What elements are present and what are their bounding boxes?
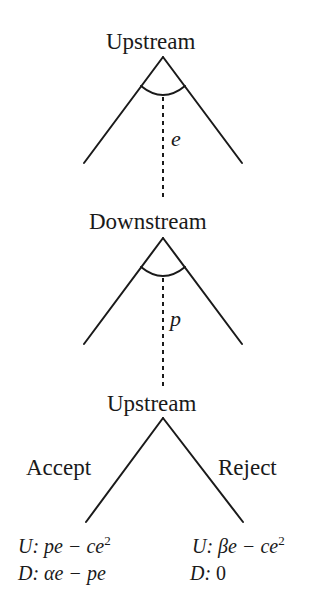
node1-label: Upstream: [106, 30, 195, 53]
node3-label: Upstream: [107, 392, 196, 415]
node2-continuum-arc: [141, 267, 185, 276]
node1-left-arm: [84, 57, 163, 163]
branch-reject-label: Reject: [218, 456, 277, 479]
node1-continuum-arc: [141, 86, 185, 95]
edge-p-label: p: [170, 308, 181, 330]
edge-e-label: e: [171, 128, 181, 150]
payoff-accept-upstream: U: pe − ce2: [18, 534, 111, 556]
payoff-reject-upstream: U: βe − ce2: [192, 534, 285, 556]
node2-left-arm: [84, 238, 163, 344]
payoff-accept-downstream: D: αe − pe: [18, 563, 106, 583]
node2-label: Downstream: [89, 210, 207, 233]
branch-accept-label: Accept: [26, 456, 91, 479]
node3-accept-branch: [86, 418, 163, 522]
payoff-reject-downstream: D: 0: [190, 563, 226, 583]
game-tree-lines: [0, 0, 317, 600]
